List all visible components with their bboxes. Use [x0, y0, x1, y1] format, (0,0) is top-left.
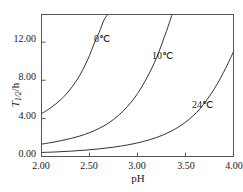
xtick-label-3: 3.50: [177, 160, 195, 171]
xtick-label-4: 4.00: [225, 160, 243, 171]
plot-frame: [42, 15, 234, 157]
y-axis-title: T1/2/h: [5, 65, 23, 125]
series-label-1: 10℃: [152, 50, 173, 61]
ytick-label-0: 0.00: [2, 148, 36, 159]
series-label-2: 24℃: [192, 99, 213, 110]
y-axis-title-subscript: 1/2: [14, 91, 23, 101]
xtick-label-1: 2.50: [80, 160, 98, 171]
series-curve-0: [42, 15, 108, 114]
ytick-label-3: 12.00: [2, 33, 36, 44]
y-axis-title-unit: /h: [9, 83, 21, 92]
series-curves: [42, 15, 234, 153]
xtick-label-2: 3.00: [128, 160, 146, 171]
y-axis-title-main: T: [9, 101, 21, 107]
x-axis-title: pH: [131, 172, 144, 184]
xtick-label-0: 2.00: [32, 160, 50, 171]
chart-figure: 0.00 4.00 8.00 12.00 2.00 2.50 3.00 3.50…: [0, 0, 243, 192]
series-label-0: 0℃: [94, 33, 110, 44]
